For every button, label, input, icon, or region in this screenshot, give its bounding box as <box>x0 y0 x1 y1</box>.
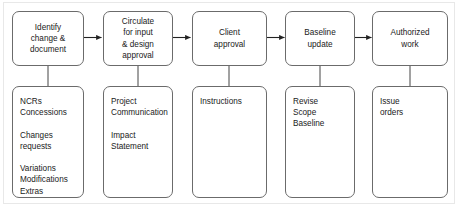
process-step-label: Authorized work <box>390 27 429 49</box>
detail-box-project-communication[interactable]: Project Communication Impact Statement <box>103 86 173 198</box>
process-step-label: Client approval <box>214 27 245 49</box>
process-step-identify-change[interactable]: Identify change & document <box>12 11 84 66</box>
process-step-client-approval[interactable]: Client approval <box>192 11 267 66</box>
detail-box-label: Project Communication Impact Statement <box>111 96 165 152</box>
process-step-circulate-for-input[interactable]: Circulate for input & design approval <box>103 11 173 66</box>
process-step-label: Baseline update <box>304 27 335 49</box>
detail-box-ncrs-concessions[interactable]: NCRs Concessions Changes requests Variat… <box>12 86 84 198</box>
flowchart-diagram: Identify change & document Circulate for… <box>0 0 458 208</box>
process-step-authorized-work[interactable]: Authorized work <box>372 11 448 66</box>
process-step-label: Circulate for input & design approval <box>122 16 154 61</box>
process-step-baseline-update[interactable]: Baseline update <box>285 11 355 66</box>
detail-box-label: Instructions <box>200 96 259 107</box>
detail-box-revise-scope-baseline[interactable]: Revise Scope Baseline <box>285 86 355 198</box>
detail-box-label: Revise Scope Baseline <box>293 96 347 130</box>
detail-box-label: NCRs Concessions Changes requests Variat… <box>20 96 76 197</box>
detail-box-label: Issue orders <box>380 96 440 118</box>
detail-box-issue-orders[interactable]: Issue orders <box>372 86 448 198</box>
process-step-label: Identify change & document <box>30 22 66 56</box>
detail-box-instructions[interactable]: Instructions <box>192 86 267 198</box>
